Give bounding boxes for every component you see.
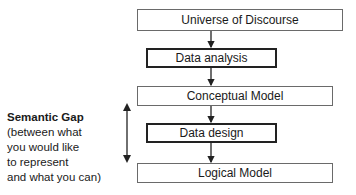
node-data-design: Data design [146,123,277,143]
semantic-gap-line: and what you can) [7,170,101,185]
node-data-analysis: Data analysis [146,48,277,68]
node-logical-model: Logical Model [137,163,333,183]
double-arrow-icon [123,103,131,163]
node-conceptual-model: Conceptual Model [137,86,333,106]
semantic-gap-line: (between what [7,125,101,140]
semantic-gap-line: you would like [7,140,101,155]
node-universe-of-discourse: Universe of Discourse [137,9,343,31]
semantic-gap-annotation: Semantic Gap (between what you would lik… [7,110,101,185]
semantic-gap-title: Semantic Gap [7,110,101,125]
semantic-gap-line: to represent [7,155,101,170]
